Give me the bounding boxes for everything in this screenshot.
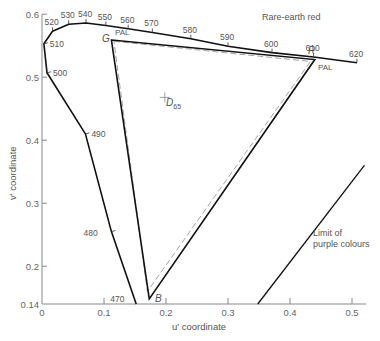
wavelength-label-520: 520 [45,17,59,27]
y-tick-label: 0.2 [26,261,39,272]
wavelength-label-500: 500 [53,68,67,78]
wavelength-label-570: 570 [144,18,158,28]
label-group: Rare-earth red G PAL R PAL B D65 Limit o… [7,12,370,332]
wavelength-label-550: 550 [98,12,112,22]
wavelength-label-510: 510 [50,39,64,49]
x-tick-label: 0.4 [283,307,296,318]
x-axis-label: u' coordinate [172,321,226,332]
d65-subscript: 65 [173,103,181,110]
y-tick-label: 0.5 [26,72,39,83]
rare-earth-red-label: Rare-earth red [262,12,321,22]
gamut-group [111,40,364,304]
pal-g-label: PAL [115,28,130,37]
wavelength-label-490: 490 [91,129,105,139]
y-axis-label: v' coordinate [7,146,18,200]
wavelength-label-620: 620 [349,49,363,59]
chromaticity-diagram: 00.10.20.30.40.50.140.20.30.40.50.6 4704… [0,0,380,341]
wavelength-label-600: 600 [264,39,278,49]
d65-letter: D [166,97,173,108]
x-tick-label: 0 [39,307,44,318]
wavelength-tick [85,133,89,134]
spectrum-locus-group: 4704804905005105205305405505605705805906… [44,9,364,304]
wavelength-label-580: 580 [183,25,197,35]
wavelength-label-530: 530 [61,10,75,20]
purple-limit-label-2: purple colours [313,239,370,249]
wavelength-label-480: 480 [83,228,97,238]
y-tick-label: 0.6 [26,9,39,20]
x-tick-label: 0.5 [345,307,358,318]
g-primary-label: G [102,33,110,44]
x-tick-label: 0.2 [159,307,172,318]
x-tick-label: 0.3 [221,307,234,318]
purple-limit-label-1: Limit of [313,228,343,238]
wavelength-label-560: 560 [120,15,134,25]
y-tick-label: 0.3 [26,198,39,209]
rare-earth-gamut-triangle [111,40,314,299]
wavelength-label-470: 470 [110,294,124,304]
y-tick-label: 0.14 [21,299,40,310]
wavelength-label-540: 540 [78,9,92,19]
y-tick-label: 0.4 [26,135,39,146]
pal-r-label: PAL [318,63,333,72]
d65-label: D65 [166,97,181,110]
wavelength-tick [111,231,115,232]
x-tick-label: 0.1 [97,307,110,318]
purple-limit-line [258,165,365,304]
wavelength-label-590: 590 [220,32,234,42]
r-primary-label: R [308,45,315,56]
b-primary-label: B [155,293,162,304]
